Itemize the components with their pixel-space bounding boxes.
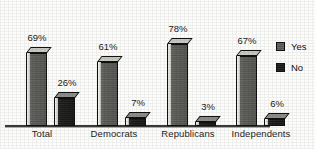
bar-value-label: 69% — [16, 32, 58, 43]
bar-bevel — [236, 56, 240, 126]
bar-top-face — [236, 50, 262, 56]
bar-value-label: 78% — [157, 23, 199, 34]
chart-legend: Yes No — [276, 40, 315, 82]
plot-area: 69% 26% 61% 7% — [0, 0, 272, 149]
bar-top-face — [195, 116, 221, 122]
bar-bevel — [26, 53, 30, 126]
bar-total-no: 26% — [54, 98, 75, 126]
legend-item-yes: Yes — [276, 40, 315, 53]
bar-group-democrats: 61% 7% — [93, 20, 155, 126]
bar-bevel — [264, 119, 268, 126]
bar-value-label: 67% — [226, 35, 268, 46]
bar-top-face — [125, 112, 151, 118]
bar-total-yes: 69% — [26, 53, 47, 126]
legend-swatch-no-icon — [276, 63, 285, 72]
bar-value-label: 6% — [256, 98, 298, 109]
bar-independents-yes: 67% — [236, 56, 257, 126]
bar-group-republicans: 78% 3% — [163, 20, 225, 126]
bar-bevel — [125, 118, 129, 126]
legend-swatch-yes-icon — [276, 42, 285, 51]
bar-bevel — [97, 62, 101, 126]
legend-label-no: No — [291, 62, 303, 73]
bar-bevel — [167, 44, 171, 126]
bar-group-total: 69% 26% — [22, 20, 84, 126]
bar-top-face — [26, 47, 52, 53]
bar-top-face — [264, 113, 290, 119]
bar-bevel — [195, 122, 199, 126]
bar-value-label: 61% — [87, 41, 129, 52]
bar-value-label: 7% — [117, 97, 159, 108]
bar-top-face — [54, 92, 80, 98]
category-label-independents: Independents — [212, 128, 310, 139]
bar-independents-no: 6% — [264, 119, 285, 126]
bar-value-label: 26% — [46, 77, 88, 88]
bar-democrats-yes: 61% — [97, 62, 118, 126]
bar-top-face — [97, 56, 123, 62]
bar-chart: 69% 26% 61% 7% — [0, 0, 315, 149]
bar-top-face — [167, 38, 193, 44]
bar-republicans-no: 3% — [195, 122, 216, 126]
legend-label-yes: Yes — [291, 41, 307, 52]
bar-value-label: 3% — [187, 101, 229, 112]
bar-republicans-yes: 78% — [167, 44, 188, 126]
bar-bevel — [54, 98, 58, 126]
bar-democrats-no: 7% — [125, 118, 146, 126]
legend-item-no: No — [276, 61, 315, 74]
